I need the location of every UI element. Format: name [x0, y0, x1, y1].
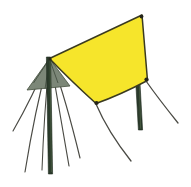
grommet-bottom: [94, 101, 98, 105]
grommet-top-right: [140, 15, 144, 19]
grommet-right: [144, 77, 148, 81]
illustration-root: A-frame tarp shelter: [0, 0, 191, 187]
grommet-apex: [48, 57, 51, 60]
tarp-shelter-illustration: [0, 0, 191, 187]
